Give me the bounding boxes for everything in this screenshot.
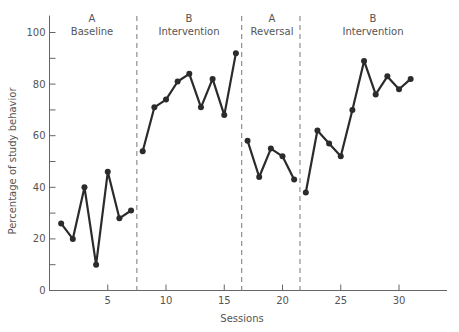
y-axis-label: Percentage of study behavior xyxy=(7,87,18,235)
data-point xyxy=(210,76,216,82)
phase-letter: B xyxy=(186,13,193,24)
phase-name: Intervention xyxy=(158,26,219,37)
data-point xyxy=(70,236,76,242)
x-tick-label: 25 xyxy=(334,295,347,306)
data-point xyxy=(221,112,227,118)
data-point xyxy=(280,153,286,159)
y-tick-label: 0 xyxy=(39,285,45,296)
data-point xyxy=(198,104,204,110)
data-point xyxy=(349,107,355,113)
y-tick-label: 100 xyxy=(26,27,45,38)
data-series xyxy=(58,50,414,268)
data-point xyxy=(245,138,251,144)
x-axis-label: Sessions xyxy=(220,313,263,324)
phase-line-intervention xyxy=(143,53,236,151)
data-point xyxy=(105,169,111,175)
data-point xyxy=(81,184,87,190)
data-point xyxy=(256,174,262,180)
y-tick-label: 60 xyxy=(33,130,46,141)
phase-name: Baseline xyxy=(71,26,113,37)
y-tick-label: 20 xyxy=(33,233,46,244)
data-point xyxy=(128,208,134,214)
data-point xyxy=(384,73,390,79)
phase-letter: A xyxy=(89,13,96,24)
x-tick-label: 15 xyxy=(218,295,231,306)
phase-name: Reversal xyxy=(251,26,294,37)
data-point xyxy=(408,76,414,82)
x-tick-label: 10 xyxy=(160,295,173,306)
data-point xyxy=(303,189,309,195)
data-point xyxy=(361,58,367,64)
data-point xyxy=(338,153,344,159)
phase-labels: ABaselineBInterventionAReversalBInterven… xyxy=(71,13,404,37)
x-tick-label: 20 xyxy=(276,295,289,306)
data-point xyxy=(93,262,99,268)
y-tick-label: 80 xyxy=(33,79,46,90)
data-point xyxy=(140,148,146,154)
x-tick-label: 5 xyxy=(105,295,111,306)
phase-name: Intervention xyxy=(342,26,403,37)
phase-line-intervention xyxy=(306,61,411,193)
data-point xyxy=(163,97,169,103)
data-point xyxy=(186,71,192,77)
data-point xyxy=(151,104,157,110)
phase-letter: B xyxy=(370,13,377,24)
data-point xyxy=(116,215,122,221)
phase-lines xyxy=(137,16,300,291)
data-point xyxy=(291,177,297,183)
data-point xyxy=(396,86,402,92)
data-point xyxy=(233,50,239,56)
single-subject-chart: 02040608010051015202530 ABaselineBInterv… xyxy=(0,0,459,332)
axes: 02040608010051015202530 xyxy=(26,16,447,306)
phase-letter: A xyxy=(269,13,276,24)
y-tick-label: 40 xyxy=(33,182,46,193)
data-point xyxy=(326,140,332,146)
data-point xyxy=(373,91,379,97)
data-point xyxy=(58,220,64,226)
x-tick-label: 30 xyxy=(393,295,406,306)
data-point xyxy=(268,146,274,152)
data-point xyxy=(314,128,320,134)
data-point xyxy=(175,79,181,85)
